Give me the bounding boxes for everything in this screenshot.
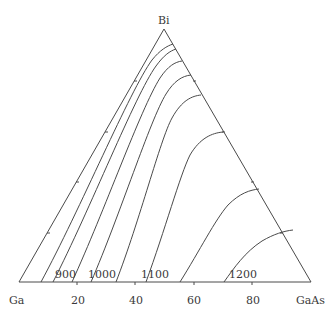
triangle-frame	[19, 29, 311, 282]
isotherm-curve-4	[91, 75, 191, 282]
vertex-label-ga: Ga	[9, 294, 25, 307]
vertex-label-bi: Bi	[158, 14, 170, 27]
isotherm-label-900: 900	[55, 268, 76, 281]
isotherm-curve-5	[116, 95, 201, 282]
ternary-diagram: Bi Ga GaAs 20 40 60 80 900 1000 1100 120…	[0, 0, 336, 320]
isotherm-label-1200: 1200	[229, 268, 257, 281]
isotherm-curve-2	[53, 49, 176, 282]
isotherm-curves	[41, 44, 293, 282]
isotherm-label-1100: 1100	[141, 268, 169, 281]
base-tick-label-60: 60	[187, 294, 201, 307]
isotherm-curve-6	[146, 132, 223, 282]
isotherm-curve-1	[41, 44, 173, 282]
isotherm-label-1000: 1000	[88, 268, 116, 281]
vertex-label-gaas: GaAs	[296, 294, 325, 307]
base-tick-label-20: 20	[71, 294, 85, 307]
base-tick-label-80: 80	[246, 294, 260, 307]
base-tick-label-40: 40	[129, 294, 143, 307]
